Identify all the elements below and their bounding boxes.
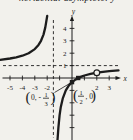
x-axis-arrow-icon <box>116 76 122 80</box>
asymptote-dashed-lines <box>3 20 118 138</box>
filled-point-marker <box>70 80 74 84</box>
filled-point-marker <box>76 76 80 80</box>
curve-left-branch <box>0 16 47 60</box>
curve-right-branch <box>58 70 119 140</box>
open-paren: ( <box>26 89 31 106</box>
x-axis-label: x <box>123 74 128 83</box>
y-tick-label: 4 <box>63 25 67 33</box>
y-axis-label: y <box>71 7 76 16</box>
y-tick-label: 2 <box>63 50 67 58</box>
open-paren: ( <box>73 87 78 104</box>
fraction-denominator: 2 <box>79 98 82 105</box>
y-axis-arrow-icon <box>70 16 74 22</box>
y-axis-tick-labels: 1234 <box>63 25 67 70</box>
x-tick-label: -3 <box>32 84 38 92</box>
figure-rational-function-graph: horizontal asymptote: y -5-4-3-223 1234 … <box>0 0 133 140</box>
close-paren: ) <box>51 89 56 106</box>
point-label-x-intercept: ( 1 2 , 0 ) <box>73 87 96 105</box>
x-tick-label: -5 <box>7 84 13 92</box>
graph-canvas: -5-4-3-223 1234 x y ( 0, - 1 3 ) ( 1 2 ,… <box>0 0 133 140</box>
x-tick-label: 3 <box>107 84 111 92</box>
label-pre: 0, - <box>31 93 42 102</box>
fraction-numerator: 1 <box>44 91 47 98</box>
y-tick-label: 1 <box>63 62 67 70</box>
fraction-denominator: 3 <box>44 100 47 107</box>
close-paren: ) <box>91 87 96 104</box>
y-tick-label: 3 <box>63 37 67 45</box>
fraction-numerator: 1 <box>79 89 82 96</box>
point-label-y-intercept: ( 0, - 1 3 ) <box>26 89 56 107</box>
open-circle-hole-marker <box>94 70 100 76</box>
